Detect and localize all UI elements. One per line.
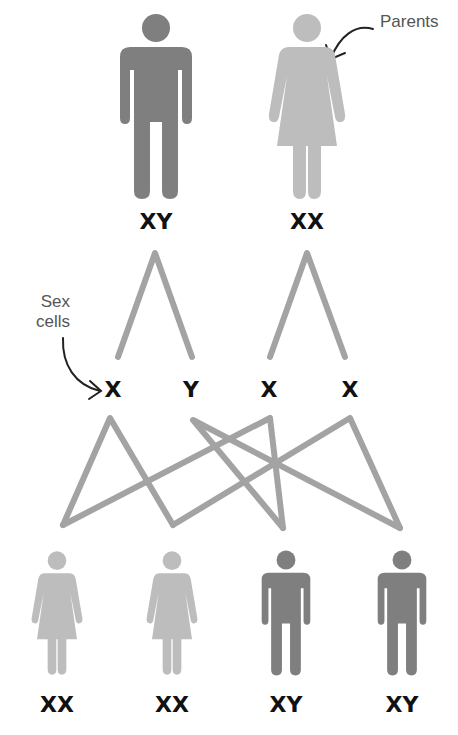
- x1-to-children-lines: [63, 418, 173, 525]
- sex-cell-label: X: [105, 379, 122, 401]
- sex-cells-annotation-line1: Sex: [26, 292, 70, 312]
- y-to-children-lines: [193, 420, 400, 528]
- mother-genotype-label: XX: [290, 211, 324, 233]
- sex-cells-arrow-icon: [63, 338, 100, 391]
- sex-cells-annotation-line2: cells: [26, 312, 70, 332]
- sex-cells-annotation: Sex cells: [26, 292, 70, 331]
- offspring-genotype-label: XY: [386, 694, 419, 716]
- offspring-genotype-label: XX: [40, 694, 74, 716]
- offspring-genotype-label: XY: [270, 694, 303, 716]
- mother-split-lines: [270, 253, 345, 357]
- offspring-man-icon: [375, 549, 429, 677]
- sex-cell-label: X: [342, 379, 359, 401]
- sex-cell-label: Y: [183, 379, 199, 401]
- father-man-icon: [116, 14, 196, 199]
- offspring-man-icon: [259, 549, 313, 677]
- father-genotype-label: XY: [140, 211, 173, 233]
- x3-to-children-lines: [63, 418, 283, 528]
- offspring-genotype-label: XX: [155, 694, 189, 716]
- offspring-woman-icon: [144, 549, 200, 677]
- father-split-lines: [118, 253, 192, 357]
- sex-cell-label: X: [261, 379, 278, 401]
- parents-annotation: Parents: [380, 12, 439, 32]
- sex-determination-diagram: XY XX Parents Sex cells X Y X X XX: [0, 0, 458, 735]
- mother-woman-icon: [265, 14, 349, 199]
- offspring-woman-icon: [29, 549, 85, 677]
